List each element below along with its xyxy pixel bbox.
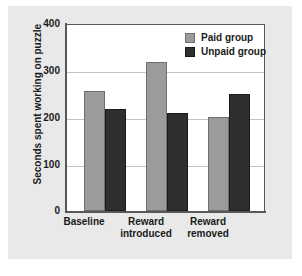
bar-reward-removed-paid	[208, 117, 229, 211]
x-label-reward-removed-line1: Reward	[162, 216, 254, 228]
y-tick-label-200: 200	[26, 113, 60, 123]
bar-group-baseline	[84, 25, 126, 211]
chart-legend: Paid group Unpaid group	[185, 32, 266, 60]
bar-reward-introduced-paid	[146, 62, 167, 211]
legend-swatch-unpaid-icon	[185, 47, 195, 57]
y-tick-label-0: 0	[26, 206, 60, 216]
y-tick-label-300: 300	[26, 66, 60, 76]
bar-baseline-paid	[84, 91, 105, 211]
y-tick-label-400: 400	[26, 19, 60, 29]
figure-panel: Seconds spent working on puzzle 400 300 …	[8, 6, 292, 259]
bar-reward-introduced-unpaid	[167, 113, 188, 211]
legend-label-unpaid: Unpaid group	[201, 46, 266, 57]
bar-reward-removed-unpaid	[229, 94, 250, 211]
legend-item-paid: Paid group	[185, 32, 266, 43]
plot-area: Paid group Unpaid group	[66, 24, 265, 212]
legend-item-unpaid: Unpaid group	[185, 46, 266, 57]
y-tick-label-100: 100	[26, 160, 60, 170]
bar-baseline-unpaid	[105, 109, 126, 211]
x-label-reward-removed: Reward removed	[162, 216, 254, 240]
x-label-reward-removed-line2: removed	[162, 228, 254, 240]
bar-group-reward-introduced	[146, 25, 188, 211]
legend-label-paid: Paid group	[201, 32, 253, 43]
legend-swatch-paid-icon	[185, 33, 195, 43]
